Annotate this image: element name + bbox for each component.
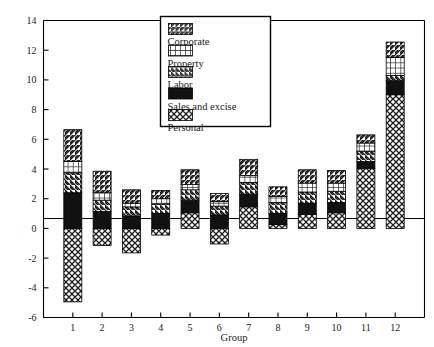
- x-tick-label: 1: [70, 322, 75, 333]
- legend-swatch-corporate: [169, 24, 193, 35]
- bar-group: [93, 171, 111, 245]
- y-tick-label: 12: [27, 45, 37, 56]
- bar-group: [328, 170, 346, 228]
- bar-segment-labor: [298, 192, 316, 203]
- x-tick-label: 12: [390, 322, 400, 333]
- bar-segment-corporate: [298, 170, 316, 183]
- bar-group: [210, 194, 228, 244]
- bar-group: [64, 130, 82, 302]
- bar-group: [269, 187, 287, 229]
- bar-segment-personal: [386, 95, 404, 229]
- bar-segment-personal: [269, 225, 287, 229]
- bar-segment-personal: [152, 228, 170, 235]
- x-tick-label: 6: [217, 322, 222, 333]
- bar-segment-personal: [93, 228, 111, 245]
- bar-segment-corporate: [122, 190, 140, 203]
- x-tick-label: 2: [100, 322, 105, 333]
- bar-segment-personal: [240, 207, 258, 229]
- bar-segment-sales-and-excise: [181, 200, 199, 213]
- bar-segment-personal: [64, 228, 82, 302]
- bar-group: [152, 191, 170, 236]
- bar-segment-labor: [210, 206, 228, 215]
- bar-segment-personal: [298, 214, 316, 228]
- bar-group: [386, 42, 404, 228]
- bar-segment-property: [298, 183, 316, 192]
- y-tick-label: 14: [27, 15, 37, 26]
- legend-swatch-property: [169, 45, 193, 56]
- x-tick-label: 7: [246, 322, 251, 333]
- bar-segment-sales-and-excise: [240, 194, 258, 207]
- bar-segment-labor: [328, 191, 346, 202]
- y-tick-label: 8: [32, 104, 37, 115]
- bar-segment-corporate: [357, 135, 375, 143]
- y-tick-label: -6: [28, 312, 36, 323]
- legend-swatch-sales-and-excise: [169, 88, 193, 99]
- stacked-bar-chart: -6-4-202468101214 123456789101112 Group …: [0, 0, 434, 347]
- y-tick-label: 0: [32, 223, 37, 234]
- bar-group: [357, 135, 375, 229]
- bar-segment-corporate: [210, 194, 228, 202]
- bar-segment-labor: [181, 190, 199, 200]
- bar-segment-sales-and-excise: [386, 81, 404, 95]
- bar-segment-labor: [152, 204, 170, 214]
- bar-segment-sales-and-excise: [122, 216, 140, 229]
- legend-swatch-personal: [169, 110, 193, 121]
- bar-segment-personal: [210, 228, 228, 244]
- bar-segment-property: [152, 199, 170, 204]
- bar-group: [181, 170, 199, 229]
- bar-segment-sales-and-excise: [298, 203, 316, 214]
- bar-segment-labor: [269, 202, 287, 213]
- bar-segment-sales-and-excise: [64, 193, 82, 229]
- x-axis-title: Group: [221, 332, 248, 343]
- bar-segment-corporate: [269, 187, 287, 197]
- bar-segment-labor: [122, 207, 140, 216]
- bar-segment-property: [122, 203, 140, 207]
- bar-group: [122, 190, 140, 253]
- bar-segment-corporate: [64, 130, 82, 162]
- x-tick-label: 8: [275, 322, 280, 333]
- x-tick-label: 10: [332, 322, 342, 333]
- bar-segment-personal: [357, 168, 375, 228]
- bar-segment-sales-and-excise: [269, 214, 287, 225]
- bar-segment-personal: [328, 213, 346, 229]
- bar-segment-corporate: [240, 159, 258, 175]
- y-tick-label: -2: [28, 253, 36, 264]
- bar-segment-property: [210, 202, 228, 206]
- bar-segment-property: [269, 196, 287, 202]
- legend-label-personal: Personal: [168, 122, 204, 133]
- legend: CorporatePropertyLaborSales and excisePe…: [161, 17, 271, 134]
- bar-segment-personal: [181, 213, 199, 229]
- bar-segment-corporate: [152, 191, 170, 199]
- bar-segment-property: [64, 162, 82, 173]
- y-tick-label: -4: [28, 282, 36, 293]
- bar-segment-corporate: [386, 42, 404, 58]
- bar-segment-corporate: [93, 171, 111, 193]
- y-tick-label: 2: [32, 193, 37, 204]
- bar-segment-sales-and-excise: [93, 211, 111, 228]
- bar-segment-sales-and-excise: [210, 215, 228, 228]
- bar-segment-property: [357, 143, 375, 151]
- bar-group: [240, 159, 258, 228]
- bar-segment-labor: [64, 173, 82, 193]
- x-tick-label: 3: [129, 322, 134, 333]
- bar-segment-sales-and-excise: [328, 202, 346, 212]
- y-tick-label: 10: [27, 74, 37, 85]
- bar-segment-sales-and-excise: [357, 162, 375, 169]
- bar-segment-property: [386, 58, 404, 76]
- bar-segment-personal: [122, 228, 140, 253]
- x-tick-label: 5: [188, 322, 193, 333]
- bar-segment-property: [240, 176, 258, 183]
- bar-segment-property: [181, 185, 199, 190]
- bar-segment-property: [328, 183, 346, 191]
- x-tick-label: 11: [361, 322, 371, 333]
- y-tick-label: 6: [32, 134, 37, 145]
- bar-segment-labor: [357, 151, 375, 161]
- bar-group: [298, 170, 316, 229]
- bar-segment-corporate: [328, 170, 346, 183]
- x-tick-label: 4: [158, 322, 163, 333]
- legend-swatch-labor: [169, 67, 193, 78]
- bar-segment-corporate: [181, 170, 199, 185]
- bar-segment-property: [93, 193, 111, 200]
- bar-segment-labor: [386, 75, 404, 80]
- bar-segment-sales-and-excise: [152, 214, 170, 229]
